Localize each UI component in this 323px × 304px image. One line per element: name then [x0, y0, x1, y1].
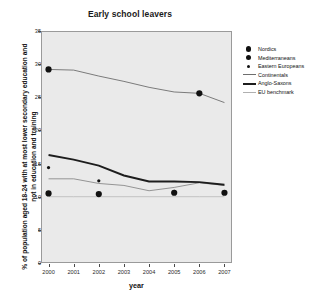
chart-title: Early school leavers [0, 9, 260, 19]
series-marker-eastern-europeans [47, 166, 50, 169]
legend-swatch [247, 65, 250, 68]
x-tick-label: 2000 [38, 269, 60, 275]
series-marker-nordics [96, 191, 102, 197]
series-marker-eastern-europeans [97, 179, 100, 182]
series-marker-nordics [45, 190, 51, 196]
x-tick-label: 2007 [213, 269, 235, 275]
x-tick-mark [99, 264, 100, 267]
legend-item-nordics[interactable]: Nordics [243, 45, 321, 53]
legend-swatch [246, 55, 251, 60]
legend-key-icon [243, 45, 257, 53]
legend-swatch [243, 74, 256, 75]
legend-swatch [246, 46, 251, 51]
plot-area [41, 31, 232, 263]
legend-item-label: EU benchmark [257, 89, 294, 95]
legend-swatch [243, 83, 256, 85]
series-line-continentals [49, 179, 225, 191]
y-axis: 05101520253035 [24, 31, 41, 263]
x-axis-label: year [40, 281, 233, 290]
x-tick-mark [224, 264, 225, 267]
x-tick-mark [174, 264, 175, 267]
legend-item-label: Nordics [257, 46, 276, 52]
chart-figure: Early school leavers % of population age… [0, 0, 323, 304]
x-tick-mark [199, 264, 200, 267]
x-tick-label: 2005 [163, 269, 185, 275]
series-line-mediterraneans [49, 69, 225, 102]
legend-item-continentals[interactable]: Continentals [243, 71, 321, 79]
legend-item-eu-benchmark[interactable]: EU benchmark [243, 88, 321, 96]
legend-key-icon [243, 88, 257, 96]
legend-key-icon [243, 62, 257, 70]
x-tick-mark [74, 264, 75, 267]
series-marker-mediterraneans [196, 90, 202, 96]
plot-series-svg [41, 31, 232, 263]
legend-item-label: Continentals [257, 72, 288, 78]
legend-key-icon [243, 54, 257, 62]
x-tick-mark [49, 264, 50, 267]
legend-item-label: Anglo-Saxons [257, 80, 292, 86]
x-tick-label: 2001 [63, 269, 85, 275]
x-axis: 20002001200220032004200520062007 [41, 264, 232, 280]
series-marker-mediterraneans [45, 66, 51, 72]
legend-key-icon [243, 71, 257, 79]
series-marker-eastern-europeans [173, 190, 176, 193]
x-tick-label: 2002 [88, 269, 110, 275]
x-tick-label: 2003 [113, 269, 135, 275]
x-tick-mark [124, 264, 125, 267]
series-marker-nordics [221, 190, 227, 196]
chart-legend: NordicsMediterraneansEastern EuropeansCo… [243, 45, 321, 97]
legend-key-icon [243, 79, 257, 87]
legend-item-anglo-saxons[interactable]: Anglo-Saxons [243, 79, 321, 87]
series-line-anglo-saxons [49, 155, 225, 185]
x-tick-label: 2004 [138, 269, 160, 275]
x-tick-mark [149, 264, 150, 267]
legend-item-mediterraneans[interactable]: Mediterraneans [243, 54, 321, 62]
legend-item-label: Eastern Europeans [257, 63, 304, 69]
legend-swatch [243, 92, 256, 93]
x-tick-label: 2006 [188, 269, 210, 275]
legend-item-label: Mediterraneans [257, 55, 295, 61]
legend-item-eastern-europeans[interactable]: Eastern Europeans [243, 62, 321, 70]
